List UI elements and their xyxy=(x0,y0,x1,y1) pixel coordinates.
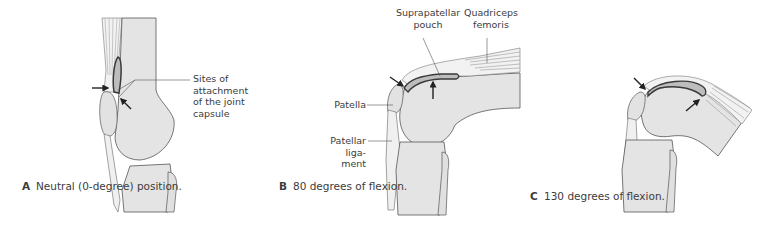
label-quadriceps-femoris: Quadriceps femoris xyxy=(460,7,522,30)
knee-flexion-figure xyxy=(0,0,783,235)
label-capsule-attachment: Sites of attachment of the joint capsule xyxy=(193,73,248,119)
panel-letter-b: B xyxy=(279,180,287,193)
panel-letter-c: C xyxy=(530,190,538,203)
label-patella: Patella xyxy=(320,99,366,111)
patella-a xyxy=(100,92,117,137)
arrow-icon xyxy=(634,78,645,89)
tibia-b xyxy=(396,142,446,215)
caption-text-a: Neutral (0-degree) position. xyxy=(36,180,182,193)
caption-text-c: 130 degrees of flexion. xyxy=(544,190,665,203)
label-patellar-ligament: Patellar liga- ment xyxy=(316,135,366,170)
caption-text-b: 80 degrees of flexion. xyxy=(293,180,407,193)
label-suprapatellar-pouch: Suprapatellar pouch xyxy=(388,7,468,30)
panel-letter-a: A xyxy=(22,180,30,193)
femur-a xyxy=(115,18,174,160)
